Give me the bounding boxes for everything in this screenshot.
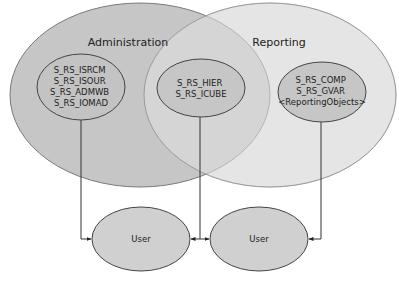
role-line: S_RS_IOMAD (54, 98, 109, 108)
svg-text:S_RS_HIER S_RS_ICUBE: S_RS_HIER S_RS_ICUBE (175, 78, 226, 99)
role-shared: S_RS_HIER S_RS_ICUBE (157, 59, 245, 117)
role-diagram: Administration Reporting S_RS_ISRCM S_RS… (0, 0, 399, 284)
role-line: S_RS_HIER (177, 78, 222, 88)
administration-label: Administration (88, 36, 169, 49)
role-reporting-only: S_RS_COMP S_RS_GVAR <ReportingObjects> (278, 62, 366, 122)
user-node-1: User (92, 207, 190, 271)
role-line: <ReportingObjects> (278, 97, 366, 107)
role-line: S_RS_ISOUR (54, 76, 106, 86)
user-label: User (131, 234, 151, 244)
role-line: S_RS_ISRCM (54, 65, 106, 75)
reporting-label: Reporting (252, 36, 305, 49)
role-line: S_RS_COMP (296, 75, 346, 85)
user-label: User (249, 234, 269, 244)
role-admin-only: S_RS_ISRCM S_RS_ISOUR S_RS_ADMWB S_RS_IO… (37, 54, 125, 120)
svg-text:S_RS_ISRCM S_RS_ISOUR: S_RS_ISRCM S_RS_ISOUR S_RS_ADMWB S_RS_IO… (50, 65, 112, 108)
role-line: S_RS_ICUBE (175, 89, 226, 99)
role-line: S_RS_ADMWB (50, 87, 109, 97)
role-line: S_RS_GVAR (296, 86, 345, 96)
user-node-2: User (210, 207, 308, 271)
